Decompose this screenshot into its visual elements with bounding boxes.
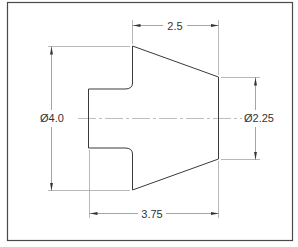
dimension-label-left-diameter: Ø4.0 xyxy=(40,112,64,124)
dimension-label-right-diameter: Ø2.25 xyxy=(244,112,274,124)
technical-drawing: 2.5 3.75 Ø4.0 Ø2.25 xyxy=(0,0,298,247)
dimension-top-length: 2.5 xyxy=(133,20,219,32)
dimension-overall-length: 3.75 xyxy=(90,208,219,220)
dimension-label-overall-length: 3.75 xyxy=(141,208,162,220)
extension-lines xyxy=(48,20,260,218)
part-outline xyxy=(89,46,219,190)
dimension-label-top-length: 2.5 xyxy=(167,20,182,32)
dimension-right-diameter: Ø2.25 xyxy=(244,78,274,160)
dimension-left-diameter: Ø4.0 xyxy=(40,47,64,191)
